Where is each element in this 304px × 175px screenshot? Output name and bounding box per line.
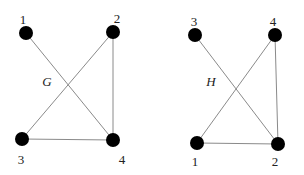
node-label: 1 <box>20 12 27 27</box>
node-label: 2 <box>272 154 279 169</box>
node-h-3 <box>188 28 202 42</box>
node-h-4 <box>268 28 282 42</box>
edge-h-1-2 <box>197 143 278 144</box>
node-label: 1 <box>192 154 199 169</box>
node-label: 2 <box>114 11 121 26</box>
node-h-2 <box>271 137 285 151</box>
edge-h-4-1 <box>197 35 275 143</box>
node-label: 4 <box>270 14 277 29</box>
edge-g-3-4 <box>22 139 113 140</box>
graph-g: 1234G <box>15 11 126 167</box>
node-g-3 <box>15 132 29 146</box>
node-g-2 <box>106 25 120 39</box>
edge-h-3-2 <box>195 35 278 144</box>
node-label: 3 <box>191 14 198 29</box>
node-h-1 <box>190 136 204 150</box>
node-label: 3 <box>18 152 25 167</box>
node-label: 4 <box>119 152 126 167</box>
graph-name-label: H <box>205 74 216 89</box>
node-g-1 <box>19 26 33 40</box>
node-g-4 <box>106 133 120 147</box>
graph-h: 3412H <box>188 14 285 169</box>
graph-diagram: 1234G 3412H <box>0 0 304 175</box>
edge-g-1-4 <box>26 33 113 140</box>
graph-name-label: G <box>42 74 52 89</box>
edge-h-4-2 <box>275 35 278 144</box>
